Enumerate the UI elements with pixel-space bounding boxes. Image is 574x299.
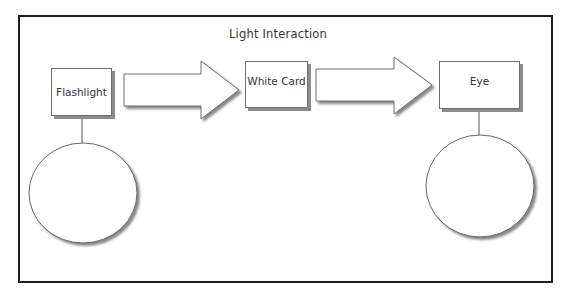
- diagram-frame: [18, 15, 553, 283]
- node-eye: Eye: [439, 61, 520, 109]
- node-flashlight-label: Flashlight: [56, 86, 107, 98]
- diagram-title: Light Interaction: [200, 27, 356, 41]
- node-flashlight: Flashlight: [51, 68, 112, 116]
- node-white-card-label: White Card: [247, 75, 305, 87]
- node-eye-label: Eye: [470, 75, 489, 87]
- node-white-card: White Card: [245, 61, 308, 108]
